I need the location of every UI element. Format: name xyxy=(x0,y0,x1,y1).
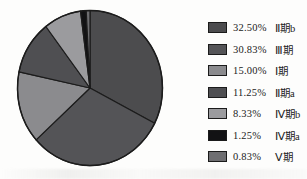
legend-percent: 0.83% xyxy=(233,151,275,162)
legend-swatch xyxy=(208,22,227,33)
legend-label: Ⅴ期 xyxy=(275,149,293,164)
legend-item: 15.00% Ⅰ期 xyxy=(208,60,304,82)
legend-swatch xyxy=(208,108,227,119)
legend-item: 30.83% Ⅲ期 xyxy=(208,39,304,61)
legend: 32.50% Ⅱ期b 30.83% Ⅲ期 15.00% Ⅰ期 11.25% Ⅱ期… xyxy=(208,17,304,168)
legend-label: Ⅳ期b xyxy=(275,106,300,121)
legend-label: Ⅱ期a xyxy=(275,85,295,100)
legend-swatch xyxy=(208,130,227,141)
legend-swatch xyxy=(208,44,227,55)
legend-percent: 15.00% xyxy=(233,65,275,76)
pie-chart-svg xyxy=(0,0,185,179)
legend-swatch xyxy=(208,151,227,162)
legend-percent: 1.25% xyxy=(233,130,275,141)
legend-percent: 11.25% xyxy=(233,87,275,98)
pie-chart xyxy=(0,0,185,179)
legend-item: 8.33% Ⅳ期b xyxy=(208,103,304,125)
legend-item: 32.50% Ⅱ期b xyxy=(208,17,304,39)
legend-label: Ⅰ期 xyxy=(275,63,288,78)
legend-label: Ⅳ期a xyxy=(275,128,300,143)
legend-item: 1.25% Ⅳ期a xyxy=(208,125,304,147)
pie-chart-figure: 32.50% Ⅱ期b 30.83% Ⅲ期 15.00% Ⅰ期 11.25% Ⅱ期… xyxy=(0,0,307,179)
legend-swatch xyxy=(208,65,227,76)
legend-item: 0.83% Ⅴ期 xyxy=(208,146,304,168)
legend-label: Ⅱ期b xyxy=(275,20,295,35)
legend-swatch xyxy=(208,87,227,98)
legend-item: 11.25% Ⅱ期a xyxy=(208,82,304,104)
legend-percent: 8.33% xyxy=(233,108,275,119)
legend-percent: 32.50% xyxy=(233,22,275,33)
legend-label: Ⅲ期 xyxy=(275,42,293,57)
legend-percent: 30.83% xyxy=(233,44,275,55)
scan-smudge xyxy=(0,169,307,179)
